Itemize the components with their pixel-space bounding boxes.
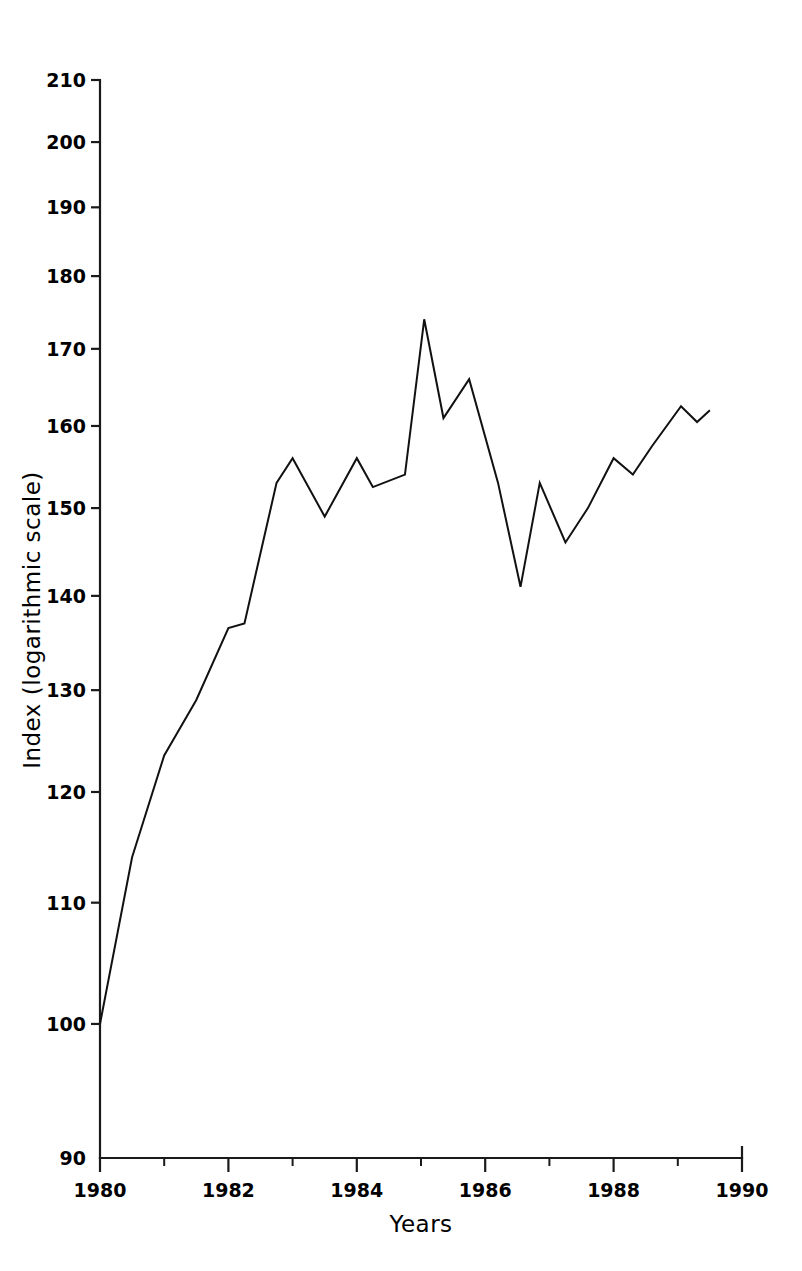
y-axis-tick-label: 110 xyxy=(46,892,86,914)
x-axis-tick-label: 1986 xyxy=(459,1179,512,1201)
y-axis-tick-label: 100 xyxy=(46,1013,86,1035)
y-axis-tick-label: 160 xyxy=(46,415,86,437)
x-axis-tick-label: 1990 xyxy=(716,1179,769,1201)
chart-figure: 90100110120130140150160170180190200210 1… xyxy=(0,0,802,1271)
x-axis-title: Years xyxy=(388,1211,452,1237)
x-axis-tick-label: 1980 xyxy=(74,1179,127,1201)
x-axis-tick-label: 1982 xyxy=(202,1179,255,1201)
x-axis-tick-label: 1984 xyxy=(330,1179,383,1201)
y-axis-tick-label: 180 xyxy=(46,265,86,287)
y-axis-tick-label: 200 xyxy=(46,131,86,153)
y-axis-tick-label: 150 xyxy=(46,497,86,519)
y-axis-title: Index (logarithmic scale) xyxy=(19,471,45,769)
y-axis-tick-label: 130 xyxy=(46,679,86,701)
y-axis-tick-label: 120 xyxy=(46,781,86,803)
y-axis-tick-label: 170 xyxy=(46,338,86,360)
x-axis-tick-label: 1988 xyxy=(587,1179,640,1201)
y-axis-tick-label: 90 xyxy=(60,1147,86,1169)
y-axis-tick-label: 190 xyxy=(46,196,86,218)
y-axis-tick-label: 210 xyxy=(46,69,86,91)
y-axis-tick-label: 140 xyxy=(46,585,86,607)
line-chart-svg: 90100110120130140150160170180190200210 1… xyxy=(0,0,802,1271)
chart-background xyxy=(0,0,802,1271)
